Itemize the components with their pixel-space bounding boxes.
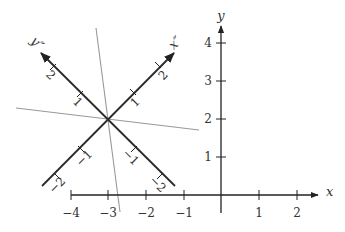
y2-tick-label: 1 [70,95,85,110]
y-tick-label: 4 [204,36,212,50]
coordinate-diagram: −4 −3 −2 −1 1 2 x 1 2 3 4 y −2 −1 1 2 x″ [0,0,345,232]
x-tick-label: 2 [293,206,301,220]
x-axis: −4 −3 −2 −1 1 2 x [62,184,334,220]
x-double-prime-axis: −2 −1 1 2 x″ [42,33,185,196]
y-tick-label: 3 [204,74,212,88]
y2-tick-label: 2 [43,68,58,83]
x-tick-label: −3 [99,206,117,220]
y-axis-label: y [216,8,225,23]
x-tick-label: −1 [175,206,193,220]
y2-axis-label: y″ [27,32,47,52]
x2-tick-label: 1 [128,95,143,110]
x-axis-label: x [326,184,334,199]
x2-tick-label: −2 [46,174,68,196]
y-tick-label: 2 [204,112,212,126]
x2-axis-label: x″ [165,33,184,52]
y-axis: 1 2 3 4 y [204,8,226,213]
x-tick-label: 1 [255,206,263,220]
x2-tick-label: 2 [156,68,171,83]
y-double-prime-axis: −2 −1 1 2 y″ [27,32,175,195]
x-tick-label: −2 [137,206,155,220]
y-tick-label: 1 [204,150,212,164]
x-tick-label: −4 [62,206,80,220]
